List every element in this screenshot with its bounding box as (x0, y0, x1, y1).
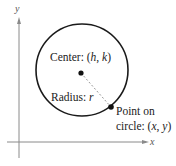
circle-point (108, 104, 114, 110)
center-label: Center: (h, k) (50, 52, 111, 64)
radius-label-prefix: Radius: (51, 91, 89, 103)
point-label-line1: Point on (116, 106, 155, 118)
x-axis-arrow-icon (142, 140, 149, 144)
y-axis-arrow-icon (17, 17, 21, 24)
radius-label: Radius: r (51, 92, 94, 104)
circle-diagram: y x Center: (h, k) Radius: r Point on ci… (0, 0, 176, 166)
y-axis-label: y (15, 4, 19, 14)
point-label-line2: circle: (x, y) (116, 121, 171, 133)
center-point (78, 70, 83, 75)
point-label-suffix: ) (167, 120, 171, 132)
center-label-prefix: Center: ( (50, 51, 91, 63)
center-label-suffix: ) (107, 51, 111, 63)
point-label-prefix: circle: ( (116, 120, 151, 132)
x-axis-label: x (150, 137, 154, 147)
radius-symbol: r (89, 91, 93, 103)
